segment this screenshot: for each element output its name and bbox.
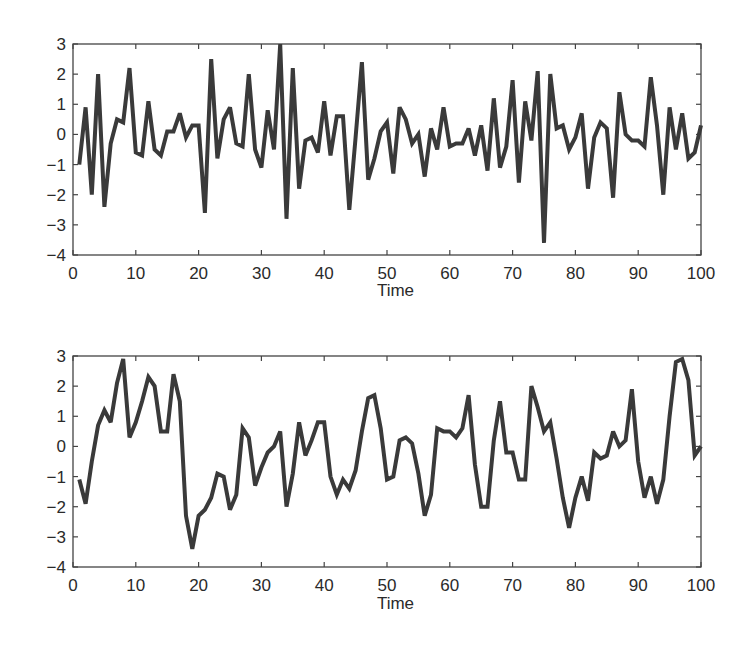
x-tick-label: 90 [629, 576, 648, 592]
x-tick-label: 40 [315, 264, 334, 280]
y-tick-label: −1 [47, 468, 66, 487]
x-axis-label-bottom: Time [18, 594, 755, 614]
x-tick-label: 30 [252, 264, 271, 280]
data-line [79, 359, 701, 549]
y-tick-label: 0 [57, 437, 66, 456]
x-tick-label: 80 [566, 264, 585, 280]
y-tick-label: 2 [57, 377, 66, 396]
x-tick-label: 10 [126, 576, 145, 592]
y-tick-label: −4 [47, 558, 66, 577]
y-tick-label: 1 [57, 407, 66, 426]
x-tick-label: 80 [566, 576, 585, 592]
x-tick-label: 20 [189, 264, 208, 280]
y-tick-label: 2 [57, 65, 66, 84]
line-chart-bottom: 01020304050607080901003210−1−2−3−4 [0, 312, 755, 592]
chart-top-panel: 01020304050607080901003210−1−2−3−4 Time [0, 0, 755, 320]
x-tick-label: 90 [629, 264, 648, 280]
chart-bottom-panel: 01020304050607080901003210−1−2−3−4 Time [0, 312, 755, 656]
x-tick-label: 0 [68, 264, 77, 280]
y-tick-label: 3 [57, 35, 66, 54]
line-chart-top: 01020304050607080901003210−1−2−3−4 [0, 0, 755, 280]
x-tick-label: 60 [440, 264, 459, 280]
x-tick-label: 30 [252, 576, 271, 592]
x-tick-label: 60 [440, 576, 459, 592]
x-tick-label: 20 [189, 576, 208, 592]
y-tick-label: −2 [47, 498, 66, 517]
y-tick-label: −3 [47, 528, 66, 547]
y-tick-label: 0 [57, 125, 66, 144]
y-tick-label: −3 [47, 216, 66, 235]
y-tick-label: 1 [57, 95, 66, 114]
x-tick-label: 40 [315, 576, 334, 592]
x-axis-label-top: Time [18, 281, 755, 301]
y-tick-label: −4 [47, 246, 66, 265]
x-tick-label: 0 [68, 576, 77, 592]
x-tick-label: 100 [687, 264, 715, 280]
x-tick-label: 50 [378, 576, 397, 592]
plot-area: 01020304050607080901003210−1−2−3−4 [47, 347, 716, 592]
y-tick-label: −2 [47, 186, 66, 205]
plot-area: 01020304050607080901003210−1−2−3−4 [47, 35, 716, 280]
plot-frame [73, 356, 701, 567]
data-line [79, 44, 701, 243]
x-tick-label: 50 [378, 264, 397, 280]
x-tick-label: 100 [687, 576, 715, 592]
y-tick-label: 3 [57, 347, 66, 366]
y-tick-label: −1 [47, 156, 66, 175]
x-tick-label: 70 [503, 264, 522, 280]
x-tick-label: 70 [503, 576, 522, 592]
x-tick-label: 10 [126, 264, 145, 280]
